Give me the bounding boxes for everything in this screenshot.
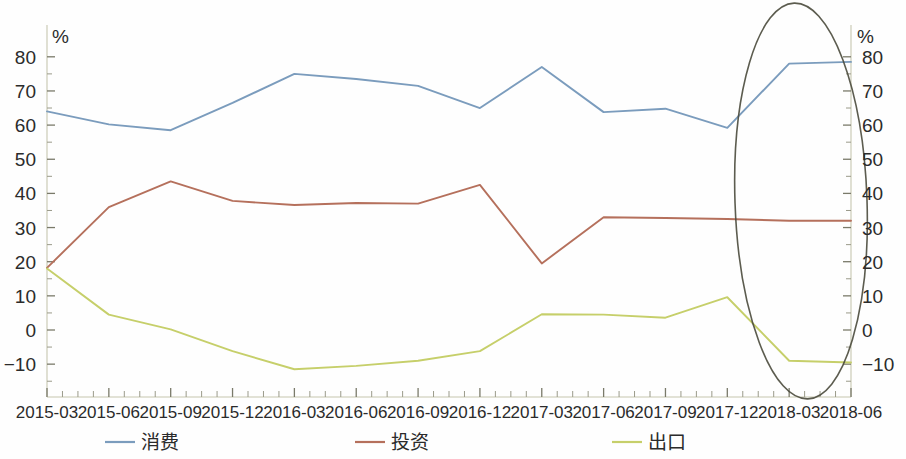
y-axis-unit-left: % [52,26,69,47]
x-axis-tick-label: 2015-09 [139,403,201,422]
x-axis-tick-label: 2018-03 [758,403,820,422]
y-axis-tick-label-left: 50 [15,149,36,170]
legend-layer: 消费投资出口 [105,432,686,453]
y-axis-tick-label-right: 50 [862,149,883,170]
line-chart: −10−100010102020303040405050606070708080… [0,0,906,459]
legend-label-2[interactable]: 出口 [648,432,686,453]
y-axis-tick-label-right: −10 [862,354,894,375]
series-line-1 [47,181,851,267]
legend-label-0[interactable]: 消费 [141,432,179,453]
x-axis-tick-label: 2017-03 [511,403,573,422]
annotation-layer [728,1,874,401]
y-axis-tick-label-right: 80 [862,47,883,68]
y-axis-tick-label-right: 20 [862,252,883,273]
y-axis-tick-label-right: 0 [862,320,873,341]
chart-container: −10−100010102020303040405050606070708080… [0,0,906,459]
series-line-0 [47,62,851,130]
y-axis-tick-label-left: 30 [15,218,36,239]
x-axis-tick-label: 2015-12 [201,403,263,422]
y-axis-tick-label-left: 20 [15,252,36,273]
x-axis-tick-label: 2015-03 [16,403,78,422]
x-axis-tick-label: 2017-09 [634,403,696,422]
highlight-ellipse-annotation [728,1,874,401]
y-axis-tick-label-right: 70 [862,81,883,102]
y-axis-tick-label-right: 40 [862,183,883,204]
y-axis-tick-label-left: 40 [15,183,36,204]
x-axis-tick-label: 2016-09 [387,403,449,422]
series-line-2 [47,269,851,370]
x-axis-tick-label: 2017-12 [696,403,758,422]
x-axis-tick-label: 2016-12 [449,403,511,422]
series-layer [47,62,851,369]
y-axis-tick-label-left: 10 [15,286,36,307]
x-axis-tick-label: 2015-06 [78,403,140,422]
x-axis-tick-label: 2017-06 [572,403,634,422]
legend-label-1[interactable]: 投资 [391,432,429,453]
x-axis-tick-label: 2016-06 [325,403,387,422]
x-axis-tick-label: 2018-06 [820,403,882,422]
y-axis-tick-label-right: 10 [862,286,883,307]
x-axis-tick-label: 2016-03 [263,403,325,422]
label-layer: −10−100010102020303040405050606070708080… [4,26,894,422]
y-axis-tick-label-left: 70 [15,81,36,102]
y-axis-tick-label-left: 60 [15,115,36,136]
y-axis-tick-label-right: 60 [862,115,883,136]
y-axis-tick-label-left: 0 [25,320,36,341]
y-axis-tick-label-left: −10 [4,354,36,375]
y-axis-unit-right: % [857,26,874,47]
y-axis-tick-label-left: 80 [15,47,36,68]
axis-layer [47,25,851,397]
y-axis-tick-label-right: 30 [862,218,883,239]
